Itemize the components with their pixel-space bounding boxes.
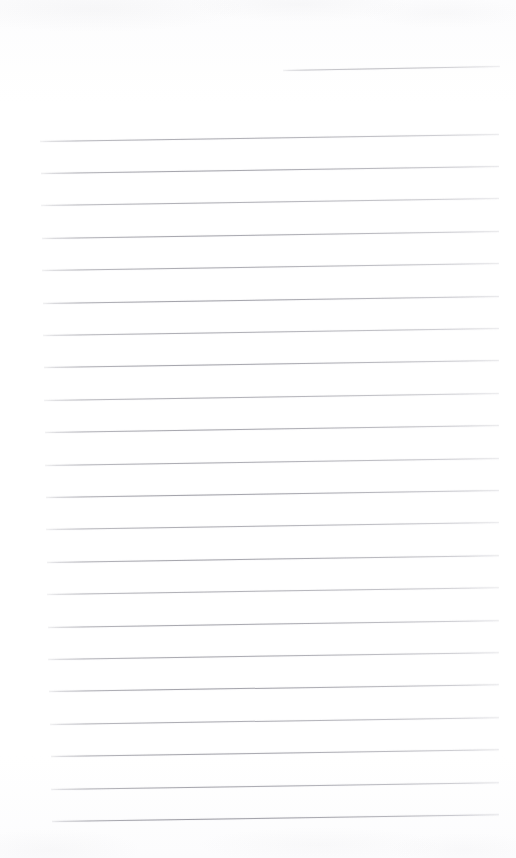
ruled-line-9	[44, 393, 499, 401]
ruled-line-22	[52, 814, 499, 822]
ruled-line-2	[41, 166, 499, 174]
ruled-line-8	[44, 360, 499, 368]
ruled-line-3	[41, 198, 499, 206]
ruled-line-15	[47, 587, 499, 595]
ruled-line-17	[48, 652, 499, 660]
ruled-line-4	[42, 231, 499, 239]
ruled-line-18	[49, 684, 499, 692]
ruled-line-1	[40, 134, 499, 142]
ruled-line-5	[42, 263, 499, 271]
ruled-line-12	[46, 490, 499, 498]
ruled-line-13	[46, 522, 499, 530]
date-line	[283, 66, 500, 71]
ruled-line-16	[48, 620, 499, 628]
ruled-line-10	[45, 425, 499, 433]
ruled-line-20	[51, 749, 499, 757]
ruled-line-19	[50, 717, 499, 725]
ruled-line-21	[51, 782, 499, 790]
ruled-line-7	[43, 328, 499, 336]
ruled-line-11	[45, 458, 499, 466]
ruled-line-14	[47, 555, 499, 563]
scanned-page	[0, 0, 516, 858]
ruled-line-6	[43, 296, 499, 304]
